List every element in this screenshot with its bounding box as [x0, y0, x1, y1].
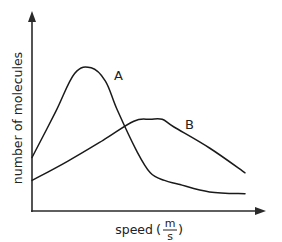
x-axis-unit-close-paren: ) [178, 222, 183, 237]
y-axis-label: number of molecules [10, 52, 25, 184]
series-b-curve [32, 119, 245, 181]
series-b-label: B [185, 117, 194, 132]
chart: A B number of molecules speed ( m s ) [0, 0, 282, 242]
series-a-label: A [114, 68, 123, 83]
series-a-curve [32, 67, 245, 194]
x-axis-arrow-icon [255, 207, 266, 215]
x-axis-label: speed [115, 222, 153, 237]
x-axis-unit-denominator: s [167, 230, 173, 242]
y-axis-arrow-icon [28, 11, 36, 22]
x-axis-unit-open-paren: ( [156, 222, 161, 237]
x-axis-unit-numerator: m [165, 217, 176, 230]
